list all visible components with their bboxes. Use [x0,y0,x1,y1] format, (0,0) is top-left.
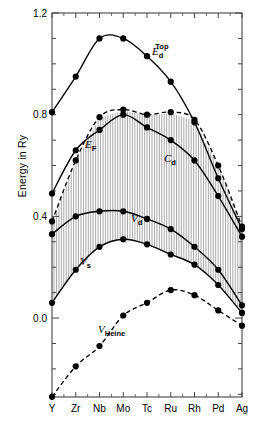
y-tick-label: 0.0 [33,313,47,324]
x-tick-label: Pd [212,403,224,414]
y-tick-label: 1.2 [33,8,47,19]
data-point [215,162,221,168]
data-point [168,226,174,232]
data-point [168,79,174,85]
data-point [73,213,79,219]
data-point [49,300,55,306]
annotation-v-s: Vs [80,255,91,270]
data-point [120,112,126,118]
data-point [96,114,102,120]
data-point [49,394,55,400]
data-point [96,343,102,349]
data-point [144,216,150,222]
x-tick-label: Rh [188,403,201,414]
data-point [49,231,55,237]
data-point [144,112,150,118]
data-point [49,218,55,224]
data-point [144,124,150,130]
y-tick-label: 0.4 [33,211,47,222]
data-point [73,157,79,163]
data-point [144,53,150,59]
x-tick-label: Y [49,403,56,414]
data-point [73,73,79,79]
data-point [168,137,174,143]
data-point [120,208,126,214]
data-point [191,117,197,123]
x-tick-label: Ag [236,403,248,414]
x-tick-label: Nb [93,403,106,414]
data-point [239,323,245,329]
data-point [49,190,55,196]
data-point [191,244,197,250]
data-point [191,262,197,268]
data-point [144,300,150,306]
annotation-v-heine: VHeine [98,323,125,338]
data-point [191,157,197,163]
data-point [239,310,245,316]
data-point [215,267,221,273]
data-point [120,236,126,242]
data-point [73,267,79,273]
data-point [239,234,245,240]
data-point [215,193,221,199]
data-point [96,127,102,133]
x-tick-label: Tc [142,403,152,414]
x-tick-label: Mo [116,403,130,414]
plot-area: 1.20.80.40.0 YZrNbMoTcRuRhPdAg EdTopCdEF… [0,0,254,422]
annotation-c-d: Cd [164,152,176,167]
data-point [96,244,102,250]
data-point [239,302,245,308]
data-point [191,292,197,298]
annotation-e-d-top: EdTop [151,42,169,60]
data-point [168,251,174,257]
y-tick-labels: 1.20.80.40.0 [33,8,47,324]
data-point [168,287,174,293]
y-tick-label: 0.8 [33,109,47,120]
data-point [215,282,221,288]
data-point [73,363,79,369]
data-point [239,223,245,229]
data-point [96,208,102,214]
chart-figure: Energy in Ry 1.20.80.40.0 YZrNbMoTcRuRhP… [0,0,254,422]
x-tick-labels: YZrNbMoTcRuRhPdAg [49,403,248,414]
data-point [120,312,126,318]
data-point [215,175,221,181]
data-point [49,109,55,115]
data-point [168,109,174,115]
data-point [215,307,221,313]
data-point [96,35,102,41]
x-tick-label: Ru [164,403,177,414]
data-point [120,35,126,41]
x-tick-label: Zr [71,403,81,414]
data-point [144,241,150,247]
data-point [73,147,79,153]
